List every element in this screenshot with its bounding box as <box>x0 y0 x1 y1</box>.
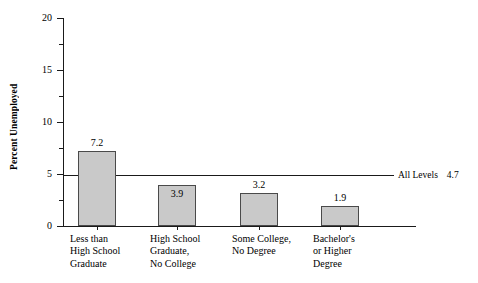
bar-chart: Percent Unemployed 20 15 10 5 0 All Leve… <box>0 0 478 283</box>
bar-value-3: 3.2 <box>240 180 278 190</box>
category-label-3: Some College, No Degree <box>232 233 324 258</box>
bar-value-4: 1.9 <box>321 193 359 203</box>
bar-value-2: 3.9 <box>158 189 196 199</box>
y-tick-label-20-wrap: 20 <box>24 13 52 23</box>
y-tick-15 <box>57 70 63 71</box>
y-tick-label-5-wrap: 5 <box>24 169 52 179</box>
y-tick-10 <box>57 122 63 123</box>
category-label-4: Bachelor's or Higher Degree <box>313 233 405 270</box>
y-minor-tick-7-5 <box>59 148 63 149</box>
category-label-1-line2: High School <box>70 245 160 257</box>
reference-line-label-text: All Levels <box>398 170 438 180</box>
x-tick-4 <box>340 226 341 230</box>
y-tick-label-0-wrap: 0 <box>24 221 52 231</box>
bar-less-than-high-school-graduate <box>78 151 116 226</box>
y-tick-label-15-wrap: 15 <box>24 65 52 75</box>
category-label-4-line3: Degree <box>313 258 405 270</box>
reference-line-label: All Levels4.7 <box>398 170 459 180</box>
x-tick-3 <box>259 226 260 230</box>
y-minor-tick-17-5 <box>59 44 63 45</box>
bar-value-1: 7.2 <box>78 138 116 148</box>
category-label-1-line1: Less than <box>70 233 160 245</box>
category-label-2: High School Graduate, No College <box>150 233 240 270</box>
y-tick-20 <box>57 18 63 19</box>
y-tick-label-10-wrap: 10 <box>24 117 52 127</box>
bar-some-college-no-degree <box>240 193 278 226</box>
category-label-3-line1: Some College, <box>232 233 324 245</box>
category-label-4-line1: Bachelor's <box>313 233 405 245</box>
y-tick-label-5: 5 <box>24 169 52 179</box>
x-axis-line <box>63 226 416 227</box>
category-label-1-line3: Graduate <box>70 258 160 270</box>
y-axis-title: Percent Unemployed <box>5 62 23 192</box>
category-label-2-line3: No College <box>150 258 240 270</box>
x-tick-2 <box>177 226 178 230</box>
category-label-4-line2: or Higher <box>313 245 405 257</box>
category-label-3-line2: No Degree <box>232 245 324 257</box>
x-tick-1 <box>97 226 98 230</box>
category-label-1: Less than High School Graduate <box>70 233 160 270</box>
category-label-2-line1: High School <box>150 233 240 245</box>
y-tick-label-15: 15 <box>24 65 52 75</box>
y-tick-label-0: 0 <box>24 221 52 231</box>
y-tick-0 <box>57 226 63 227</box>
y-tick-label-20: 20 <box>24 13 52 23</box>
y-tick-label-10: 10 <box>24 117 52 127</box>
category-label-2-line2: Graduate, <box>150 245 240 257</box>
y-axis-line <box>63 18 64 227</box>
reference-line-value: 4.7 <box>447 170 459 180</box>
y-minor-tick-2-5 <box>59 200 63 201</box>
bar-bachelors-or-higher-degree <box>321 206 359 226</box>
y-minor-tick-12-5 <box>59 96 63 97</box>
